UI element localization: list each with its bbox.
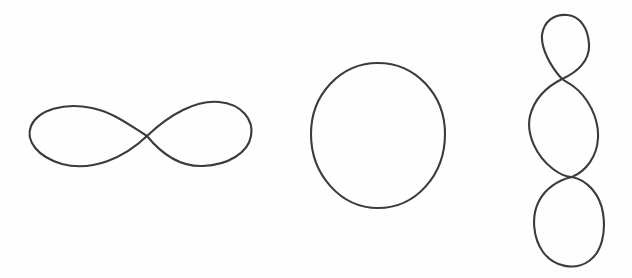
curve-canvas	[0, 0, 632, 278]
figure-sheet: Horizontal figure-eight (lemniscate) wit…	[0, 0, 632, 278]
sheet-background	[0, 0, 632, 278]
